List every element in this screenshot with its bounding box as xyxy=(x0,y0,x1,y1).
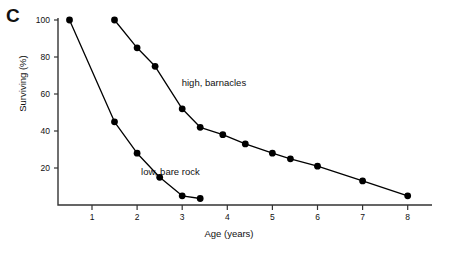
data-point-marker xyxy=(111,118,118,125)
data-point-marker xyxy=(156,174,163,181)
data-point-marker xyxy=(179,105,186,112)
data-point-marker xyxy=(359,178,366,185)
data-point-marker xyxy=(269,150,276,157)
data-point-marker xyxy=(152,63,159,70)
data-point-marker xyxy=(197,124,204,131)
axis-spine xyxy=(58,18,432,205)
data-point-marker xyxy=(287,155,294,162)
data-point-marker xyxy=(134,44,141,51)
plot-area xyxy=(0,0,458,255)
data-point-marker xyxy=(242,141,249,148)
series-line-high-barnacles xyxy=(115,20,408,196)
data-point-marker xyxy=(404,192,411,199)
data-point-marker xyxy=(219,131,226,138)
figure-panel-c: C Surviving (%) Age (years) 20 40 60 80 … xyxy=(0,0,458,255)
data-point-marker xyxy=(134,150,141,157)
data-point-marker xyxy=(197,195,204,202)
data-point-marker xyxy=(179,192,186,199)
data-point-marker xyxy=(314,163,321,170)
data-point-marker xyxy=(66,17,73,24)
data-point-marker xyxy=(111,17,118,24)
